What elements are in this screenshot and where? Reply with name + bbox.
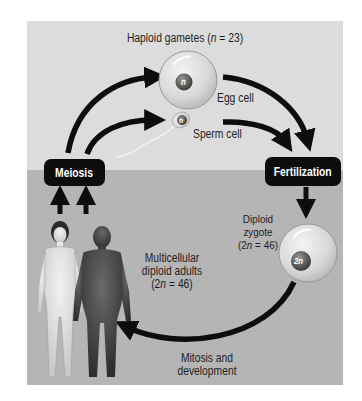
egg-cell [159,51,217,109]
haploid-gametes-title: Haploid gametes (n = 23) [125,32,245,45]
egg-nucleus-label: n [181,76,186,89]
sperm-nucleus-label: n [179,114,183,127]
zygote-cell [279,224,337,282]
diploid-adults-label: Multicellular diploid adults (2n = 46) [133,252,210,291]
zygote-nucleus-label: 2n [294,255,303,268]
meiosis-to-sperm-arrow [87,120,153,154]
meiosis-to-egg-arrow [68,77,153,153]
diploid-zygote-label: Diploid zygote (2n = 46) [237,213,280,252]
sperm-cell-label: Sperm cell [193,128,242,141]
mitosis-development-label: Mitosis and development [173,352,242,378]
life-cycle-diagram: Haploid gametes (n = 23) n n 2n Egg cell… [27,21,343,385]
fertilization-stage: Fertilization [265,157,341,186]
egg-cell-label: Egg cell [217,92,254,105]
meiosis-stage: Meiosis [44,159,105,186]
